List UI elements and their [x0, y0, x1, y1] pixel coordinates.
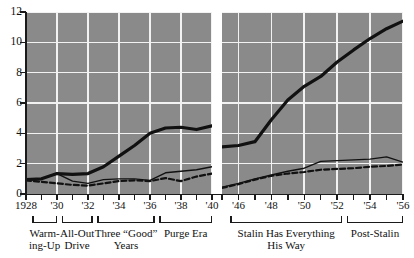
- x-axis-tick-label: '52: [321, 200, 353, 211]
- x-axis-tick-label: '54: [354, 200, 386, 211]
- panel-prewar: [26, 12, 212, 194]
- x-axis-tick-label: '38: [165, 200, 197, 211]
- y-axis-tick-label: 10: [0, 36, 22, 48]
- bracket-bar: [97, 222, 154, 223]
- era-label-post-stalin: Post-Stalin: [320, 228, 414, 240]
- x-axis-tick-label: '36: [134, 200, 166, 211]
- y-axis-tick-label: 12: [0, 6, 22, 18]
- y-axis-tick: [20, 163, 26, 165]
- y-axis-tick-label: 4: [0, 127, 22, 139]
- x-axis-tick-label: '48: [255, 200, 287, 211]
- bracket-end-right: [341, 216, 342, 223]
- y-axis-tick: [20, 72, 26, 74]
- bracket-end-right: [402, 216, 403, 223]
- y-axis-tick-label: 8: [0, 67, 22, 79]
- x-axis-tick-label: '56: [387, 200, 414, 211]
- series-layer: [26, 12, 212, 194]
- bracket-bar: [230, 222, 342, 223]
- x-axis-tick-label: '46: [222, 200, 254, 211]
- y-axis-tick: [20, 42, 26, 44]
- era-bracket-stalin-has-everything-his-way: [230, 216, 342, 223]
- x-axis-tick-label: 1928: [10, 200, 42, 211]
- bracket-end-left: [32, 216, 33, 223]
- series-line-heavy-industry: [222, 21, 403, 147]
- y-axis-tick: [20, 102, 26, 104]
- y-axis-tick-label: 2: [0, 158, 22, 170]
- plot-area: [26, 12, 403, 194]
- panel-postwar: [222, 12, 403, 194]
- bracket-end-left: [159, 216, 160, 223]
- bracket-end-right: [211, 216, 212, 223]
- era-bracket-all-out-drive: [62, 216, 93, 223]
- bracket-bar: [159, 222, 212, 223]
- series-line-light-industry: [222, 157, 403, 187]
- bracket-end-right: [153, 216, 154, 223]
- y-axis-tick: [20, 133, 26, 135]
- bracket-end-right: [91, 216, 92, 223]
- bracket-end-left: [97, 216, 98, 223]
- x-axis-tick-label: '32: [72, 200, 104, 211]
- bracket-bar: [62, 222, 93, 223]
- era-bracket-warming-up: [32, 216, 57, 223]
- y-axis-tick-label: 0: [0, 188, 22, 200]
- bracket-bar: [32, 222, 57, 223]
- x-axis-tick-label: '30: [41, 200, 73, 211]
- x-axis-tick-labels: 1928'30'32'34'36'38'40'46'48'50'52'54'56: [0, 200, 403, 214]
- series-layer: [222, 12, 403, 194]
- y-axis-labels: 024681012: [0, 0, 22, 258]
- bracket-end-left: [347, 216, 348, 223]
- axis-break: [212, 12, 222, 194]
- series-line-consumer-goods: [222, 164, 403, 188]
- era-label-purge-era: Purge Era: [131, 228, 241, 240]
- bracket-bar: [347, 222, 403, 223]
- era-bracket-three-good-years: [97, 216, 154, 223]
- x-axis-tick-label: '34: [103, 200, 135, 211]
- x-axis-tick-label: '50: [288, 200, 320, 211]
- y-axis-tick-label: 6: [0, 97, 22, 109]
- bracket-end-left: [62, 216, 63, 223]
- y-axis-tick: [20, 11, 26, 13]
- era-bracket-purge-era: [159, 216, 212, 223]
- era-bracket-post-stalin: [347, 216, 403, 223]
- bracket-end-right: [56, 216, 57, 223]
- bracket-end-left: [230, 216, 231, 223]
